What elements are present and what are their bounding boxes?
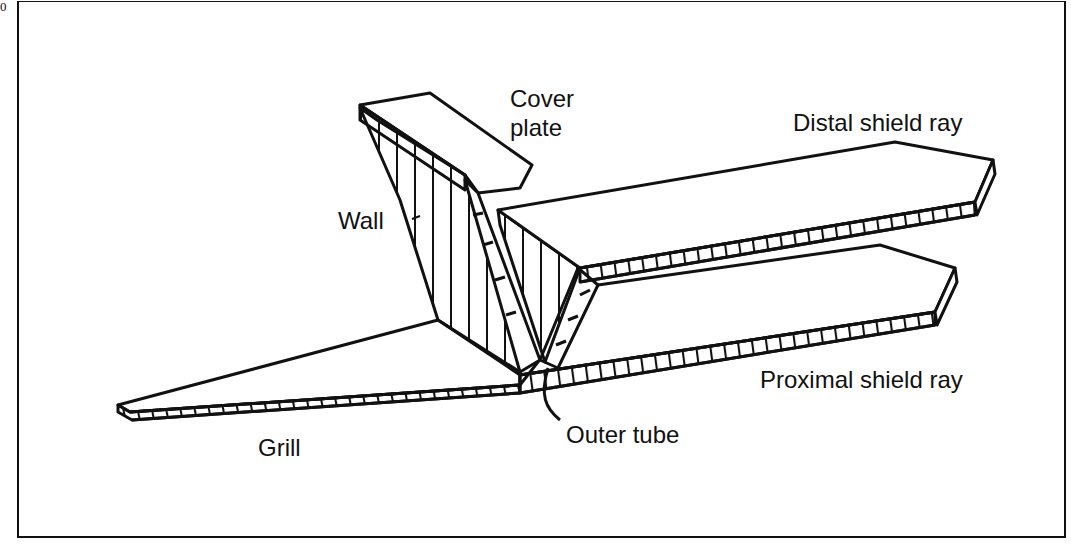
label-cover-plate: Cover plate [510, 84, 574, 142]
label-grill: Grill [258, 434, 301, 462]
label-proximal-shield-ray: Proximal shield ray [760, 366, 963, 394]
label-distal-shield-ray: Distal shield ray [793, 109, 962, 137]
label-outer-tube: Outer tube [566, 421, 679, 449]
label-wall: Wall [338, 207, 384, 235]
shield-structure-drawing [0, 0, 1071, 544]
